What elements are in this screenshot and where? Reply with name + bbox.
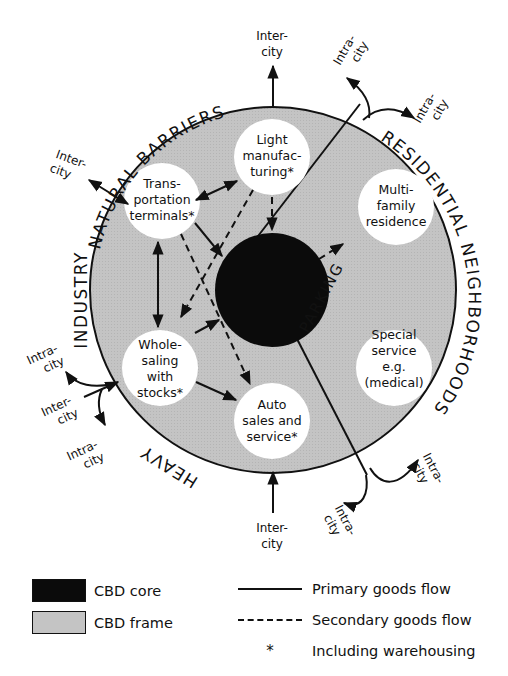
- node-light-manufacturing: Light manufac- turing*: [234, 119, 310, 195]
- cbd-frame-swatch: [32, 611, 86, 634]
- flow-label-left-intra-city-top: Intra- city: [25, 341, 67, 380]
- flow-label-top-inter-city: Inter- city: [256, 29, 288, 59]
- legend-label-primary-flow: Primary goods flow: [312, 581, 451, 597]
- svg-text:saling: saling: [142, 353, 179, 368]
- flow-label-bottom-inter-city: Inter- city: [256, 521, 288, 551]
- flow-label-topright-intra-city-1: Intra- city: [330, 32, 371, 75]
- svg-text:Inter-: Inter-: [256, 521, 288, 535]
- legend-item-cbd-core: CBD core: [32, 579, 161, 602]
- legend-label-cbd-frame: CBD frame: [94, 615, 173, 631]
- asterisk-icon: *: [238, 642, 302, 660]
- svg-text:(medical): (medical): [364, 375, 423, 390]
- flow-label-left-inter-city: Inter- city: [39, 393, 81, 432]
- flow-label-topright-intra-city-2: Intra- city: [410, 90, 451, 133]
- svg-text:city: city: [261, 537, 283, 551]
- legend-item-asterisk: * Including warehousing: [238, 642, 475, 660]
- svg-text:Whole-: Whole-: [138, 337, 182, 352]
- cbd-frame-diagram: Light manufac- turing* Trans- portation …: [0, 0, 508, 676]
- svg-text:turing*: turing*: [250, 164, 294, 179]
- svg-text:city: city: [261, 45, 283, 59]
- cbd-core-swatch: [32, 579, 86, 602]
- legend-label-asterisk: Including warehousing: [312, 643, 475, 659]
- legend-label-secondary-flow: Secondary goods flow: [312, 612, 472, 628]
- flow-label-topleft-inter-city: Inter- city: [48, 147, 89, 185]
- ring-label-industry: INDUSTRY: [71, 251, 91, 349]
- svg-text:terminals*: terminals*: [130, 208, 195, 223]
- legend-label-cbd-core: CBD core: [94, 583, 161, 599]
- flow-label-bottomright-intra-city-2: Intra- city: [407, 451, 447, 493]
- svg-text:family: family: [377, 198, 416, 213]
- svg-text:Multi-: Multi-: [378, 182, 413, 197]
- svg-text:service*: service*: [246, 429, 297, 444]
- svg-text:portation: portation: [133, 192, 190, 207]
- flow-label-bottomright-intra-city-1: Intra- city: [319, 503, 359, 545]
- svg-text:with: with: [147, 369, 174, 384]
- legend-item-primary-flow: Primary goods flow: [238, 581, 451, 597]
- legend-item-cbd-frame: CBD frame: [32, 611, 173, 634]
- svg-text:sales and: sales and: [242, 413, 301, 428]
- svg-text:manufac-: manufac-: [242, 148, 301, 163]
- svg-text:e.g.: e.g.: [382, 359, 406, 374]
- svg-text:stocks*: stocks*: [137, 385, 183, 400]
- svg-text:Special: Special: [371, 327, 416, 342]
- svg-text:Light: Light: [256, 132, 287, 147]
- svg-text:Trans-: Trans-: [142, 176, 181, 191]
- dashed-line-icon: [238, 619, 302, 621]
- legend-item-secondary-flow: Secondary goods flow: [238, 612, 472, 628]
- solid-line-icon: [238, 588, 302, 590]
- svg-text:Auto: Auto: [257, 397, 286, 412]
- svg-text:Inter-: Inter-: [256, 29, 288, 43]
- node-auto-sales-and-service: Auto sales and service*: [234, 383, 310, 459]
- svg-text:service: service: [372, 343, 417, 358]
- node-wholesaling-with-stocks: Whole- saling with stocks*: [122, 330, 198, 406]
- svg-text:residence: residence: [366, 214, 427, 229]
- flow-label-left-intra-city-bottom: Intra- city: [65, 437, 107, 476]
